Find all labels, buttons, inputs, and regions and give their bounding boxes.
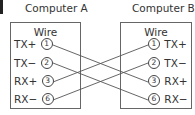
signal-label: TX− bbox=[14, 56, 36, 70]
computer-a-pin-row: TX− 2 bbox=[14, 56, 54, 70]
edge-mark bbox=[0, 0, 3, 14]
pin-number-circle: 6 bbox=[42, 93, 54, 105]
computer-a-pin-row: RX+ 3 bbox=[14, 74, 55, 88]
computer-a-pin-row: RX− 6 bbox=[14, 92, 55, 106]
pin-number-circle: 1 bbox=[41, 38, 53, 50]
signal-label: TX+ bbox=[14, 37, 36, 51]
signal-label: TX− bbox=[164, 56, 186, 70]
pin-number-circle: 3 bbox=[148, 75, 160, 87]
signal-label: RX− bbox=[14, 92, 37, 106]
pin-number-circle: 6 bbox=[148, 93, 160, 105]
computer-b-pin-row: 3 RX+ bbox=[147, 74, 188, 88]
pin-number-circle: 3 bbox=[42, 75, 54, 87]
pin-number-circle: 2 bbox=[41, 57, 53, 69]
pin-number-circle: 2 bbox=[148, 57, 160, 69]
computer-a-title: Computer A bbox=[25, 2, 88, 14]
signal-label: RX− bbox=[164, 92, 187, 106]
computer-b-pin-row: 2 TX− bbox=[147, 56, 187, 70]
signal-label: TX+ bbox=[164, 37, 186, 51]
signal-label: RX+ bbox=[164, 74, 187, 88]
computer-b-pin-row: 1 TX+ bbox=[147, 37, 187, 51]
pin-number-circle: 1 bbox=[148, 38, 160, 50]
signal-label: RX+ bbox=[14, 74, 37, 88]
computer-b-pin-row: 6 RX− bbox=[147, 92, 188, 106]
computer-b-title: Computer B bbox=[132, 2, 195, 14]
computer-a-pin-row: TX+ 1 bbox=[14, 37, 54, 51]
